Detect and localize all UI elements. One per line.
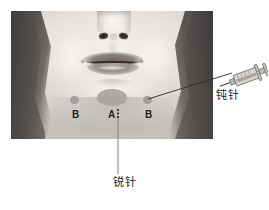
chin-crease (93, 79, 133, 87)
sharp-needle-label: 锐针 (113, 177, 136, 188)
bottom-whitespace (0, 198, 269, 210)
injection-marker-b-left (70, 96, 79, 104)
blunt-needle-label: 钝针 (216, 90, 239, 101)
marker-label-a: A (108, 110, 115, 120)
syringe-icon (216, 58, 268, 90)
figure-container: B A B (0, 0, 269, 210)
injection-marker-a (97, 89, 127, 106)
columella (110, 33, 117, 40)
injection-marker-b-right (143, 96, 152, 104)
right-mouth-corner (139, 59, 144, 64)
lip-highlight (97, 66, 127, 70)
marker-label-b-left: B (72, 110, 79, 120)
marker-label-b-right: B (145, 110, 152, 120)
left-mouth-corner (80, 59, 85, 64)
